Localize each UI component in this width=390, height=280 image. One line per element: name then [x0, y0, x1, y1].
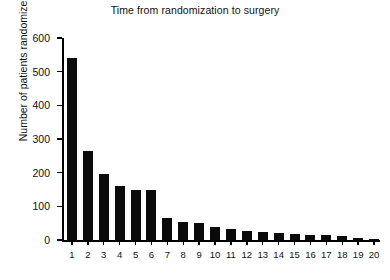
y-axis-tick-label: 300	[32, 133, 50, 145]
bar	[274, 233, 284, 240]
x-axis-tick-label: 6	[149, 249, 154, 260]
y-axis-label: Number of patients randomized	[17, 0, 29, 168]
x-axis-tick-label: 8	[181, 249, 186, 260]
y-axis-tick-label: 400	[32, 99, 50, 111]
x-axis-tick	[87, 240, 88, 245]
y-axis-tick-label: 0	[44, 234, 50, 246]
x-axis-tick	[119, 240, 120, 245]
x-axis-tick	[262, 240, 263, 245]
x-axis-line	[62, 240, 380, 242]
x-axis-tick-label: 5	[133, 249, 138, 260]
x-axis-tick-label: 11	[226, 249, 236, 260]
bar	[210, 227, 220, 240]
x-axis-tick-label: 18	[337, 249, 348, 260]
x-axis-tick-label: 16	[305, 249, 316, 260]
bar	[258, 232, 268, 240]
y-axis-tick-label: 600	[32, 32, 50, 44]
bar	[83, 151, 93, 240]
x-axis-tick-label: 15	[289, 249, 300, 260]
x-axis-tick-label: 14	[273, 249, 284, 260]
bar	[99, 174, 109, 240]
x-axis-tick	[310, 240, 311, 245]
bar	[178, 222, 188, 240]
bar-series	[62, 38, 380, 240]
x-axis-tick	[230, 240, 231, 245]
x-axis-tick-label: 4	[117, 249, 122, 260]
x-axis-tick-label: 12	[242, 249, 253, 260]
x-axis-tick-label: 7	[165, 249, 170, 260]
x-axis-tick	[183, 240, 184, 245]
x-axis-tick	[373, 240, 374, 245]
x-axis-tick-label: 10	[210, 249, 221, 260]
x-axis-tick	[278, 240, 279, 245]
chart-title: Time from randomization to surgery	[0, 4, 390, 16]
x-axis-tick-label: 2	[85, 249, 90, 260]
bar	[194, 223, 204, 240]
x-axis-tick-label: 17	[321, 249, 332, 260]
bar	[67, 58, 77, 240]
bar	[226, 229, 236, 240]
y-axis-tick-label: 100	[32, 200, 50, 212]
x-axis-tick-label: 19	[353, 249, 364, 260]
bar	[146, 190, 156, 240]
bar	[131, 190, 141, 240]
x-axis-tick	[326, 240, 327, 245]
x-axis-tick-label: 20	[369, 249, 380, 260]
y-axis-tick-label: 200	[32, 167, 50, 179]
x-axis-tick	[151, 240, 152, 245]
x-axis-tick	[135, 240, 136, 245]
x-axis-tick-label: 9	[196, 249, 201, 260]
x-axis-tick	[342, 240, 343, 245]
x-axis-tick	[71, 240, 72, 245]
x-axis-tick-label: 13	[257, 249, 268, 260]
x-axis-tick-label: 1	[69, 249, 74, 260]
bar	[115, 186, 125, 240]
x-axis-tick	[198, 240, 199, 245]
x-axis-tick	[294, 240, 295, 245]
x-axis-tick-label: 3	[101, 249, 106, 260]
plot-area: 0100200300400500600 12345678910111213141…	[62, 38, 380, 240]
bar	[162, 218, 172, 240]
x-axis-tick	[103, 240, 104, 245]
chart-figure: Time from randomization to surgery Numbe…	[0, 0, 390, 280]
y-axis-tick-label: 500	[32, 66, 50, 78]
x-axis-tick	[357, 240, 358, 245]
bar	[242, 231, 252, 240]
x-axis-tick	[167, 240, 168, 245]
x-axis-tick	[246, 240, 247, 245]
x-axis-tick	[214, 240, 215, 245]
